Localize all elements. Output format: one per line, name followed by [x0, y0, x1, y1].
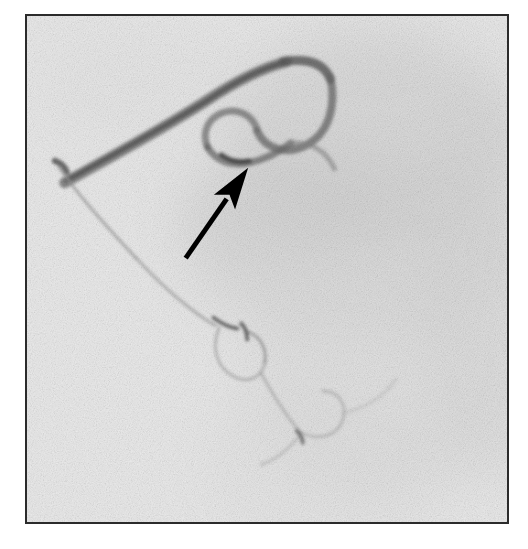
radiograph-image: [27, 16, 507, 522]
film-grain-overlay: [27, 16, 507, 522]
angiogram-viewer: [0, 0, 528, 549]
radiograph-film-frame: [25, 14, 509, 524]
